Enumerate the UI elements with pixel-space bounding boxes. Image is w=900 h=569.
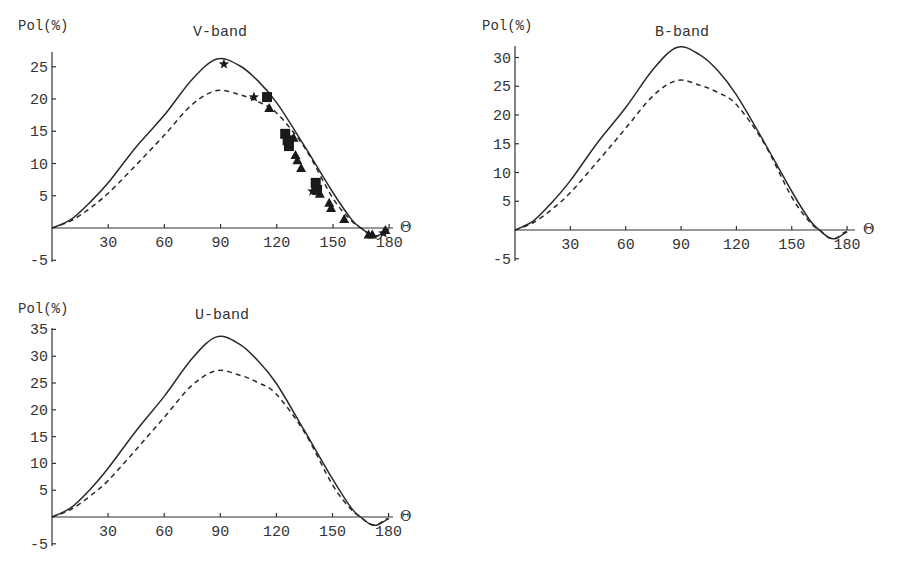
- model-dashed-curve: [52, 370, 389, 525]
- y-tick-label: 30: [30, 349, 48, 366]
- x-tick-label: 150: [319, 524, 346, 541]
- x-tick-label: 90: [211, 524, 229, 541]
- chart-title: U-band: [195, 307, 249, 324]
- model-solid-curve: [52, 336, 389, 525]
- y-tick-label: 10: [30, 456, 48, 473]
- plot-svg: 306090120150180-55101520253035U-bandPol(…: [0, 0, 900, 569]
- x-tick-label: 30: [99, 524, 117, 541]
- y-axis-label: Pol(%): [18, 301, 68, 317]
- y-tick-label: 35: [30, 322, 48, 339]
- y-tick-label: 15: [30, 430, 48, 447]
- x-tick-label: 120: [263, 524, 290, 541]
- y-tick-label: 25: [30, 376, 48, 393]
- y-tick-label: -5: [30, 537, 48, 554]
- x-tick-label: 60: [155, 524, 173, 541]
- x-tick-label: 180: [375, 524, 402, 541]
- y-tick-label: 5: [39, 483, 48, 500]
- y-tick-label: 20: [30, 403, 48, 420]
- x-axis-label-theta: Θ: [400, 508, 411, 524]
